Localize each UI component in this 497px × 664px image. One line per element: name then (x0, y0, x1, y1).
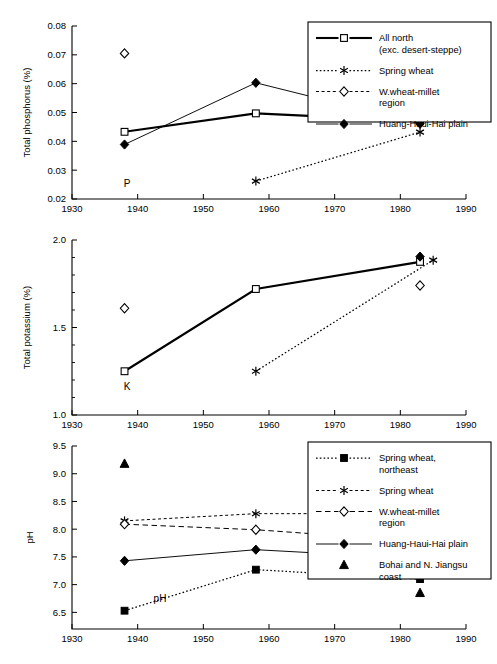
phosphorus-chart-svg: 0.020.030.040.050.060.070.08193019401950… (0, 0, 497, 230)
legend-label: Spring wheat (379, 66, 434, 76)
series-line (125, 262, 421, 371)
data-point (252, 566, 259, 573)
legend: Spring wheat,northeastSpring wheatW.whea… (308, 442, 491, 582)
data-point (252, 525, 260, 534)
axes (72, 240, 466, 415)
series-group (120, 252, 437, 376)
x-tick-label: 1940 (127, 633, 148, 644)
x-tick-label: 1990 (455, 203, 476, 214)
x-tick-label: 1970 (324, 203, 345, 214)
legend-label-line2: coast (379, 572, 402, 582)
figure-container: 0.020.030.040.050.060.070.08193019401950… (0, 0, 497, 664)
x-tick-label: 1990 (455, 633, 476, 644)
legend-label: Huang-Haui-Hai plain (379, 539, 468, 549)
data-point (120, 556, 128, 565)
y-axis-title: Total potassium (%) (21, 286, 32, 369)
x-tick-label: 1950 (193, 419, 214, 430)
series-line (256, 132, 420, 181)
y-tick-label: 0.05 (48, 107, 67, 118)
data-point (120, 304, 128, 313)
x-tick-label: 1990 (455, 419, 476, 430)
data-point (252, 367, 260, 376)
legend-label: W.wheat-millet (379, 507, 440, 517)
x-tick-label: 1930 (61, 203, 82, 214)
x-tick-label: 1980 (390, 419, 411, 430)
y-tick-label: 0.04 (48, 136, 67, 147)
panel-annotation: K (124, 381, 131, 392)
data-series (121, 258, 423, 374)
y-tick-label: 0.03 (48, 165, 67, 176)
x-tick-label: 1970 (324, 633, 345, 644)
data-series (252, 128, 424, 186)
x-tick-label: 1980 (390, 633, 411, 644)
x-tick-label: 1930 (61, 419, 82, 430)
data-point (252, 78, 260, 87)
chart-panel-ph: 6.57.07.58.08.59.09.51930194019501960197… (0, 432, 497, 664)
potassium-chart-svg: 1.01.52.01930194019501960197019801990Tot… (0, 222, 497, 437)
data-point (416, 588, 425, 596)
data-point (121, 368, 128, 375)
x-tick-label: 1950 (193, 633, 214, 644)
y-tick-label: 1.5 (53, 322, 66, 333)
series-line (256, 260, 433, 371)
chart-panel-phosphorus: 0.020.030.040.050.060.070.08193019401950… (0, 0, 497, 230)
x-tick-label: 1950 (193, 203, 214, 214)
y-tick-label: 8.5 (53, 496, 66, 507)
legend-label-line2: region (379, 518, 405, 528)
x-tick-label: 1970 (324, 419, 345, 430)
x-axis-ticks: 1930194019501960197019801990 (61, 194, 476, 214)
y-tick-label: 0.08 (48, 20, 67, 31)
axis-spines (72, 240, 466, 415)
y-tick-label: 9.5 (53, 440, 66, 451)
x-tick-label: 1960 (258, 419, 279, 430)
x-axis-ticks: 1930194019501960197019801990 (61, 624, 476, 644)
y-tick-label: 9.0 (53, 468, 66, 479)
data-point (252, 286, 259, 293)
y-axis-ticks: 1.01.52.0 (53, 234, 77, 420)
legend-label: Bohai and N. Jiangsu (379, 560, 467, 570)
data-point (429, 256, 437, 265)
panel-annotation: P (124, 178, 131, 189)
data-point (121, 128, 128, 135)
legend-label-line2: region (379, 98, 405, 108)
y-tick-label: 8.0 (53, 524, 66, 535)
data-point (120, 140, 128, 149)
data-point (121, 607, 128, 614)
y-axis-title: Total phosphorus (%) (21, 68, 32, 158)
data-point (120, 49, 128, 58)
x-tick-label: 1960 (258, 633, 279, 644)
y-tick-label: 2.0 (53, 234, 66, 245)
panel-annotation: pH (154, 593, 167, 604)
data-point (252, 545, 260, 554)
legend-label-line2: northeast (379, 465, 418, 475)
legend: All north(exc. desert-steppe)Spring whea… (308, 22, 491, 129)
y-tick-label: 0.07 (48, 49, 67, 60)
legend-label: Spring wheat (379, 486, 434, 496)
x-tick-label: 1930 (61, 633, 82, 644)
y-tick-label: 7.0 (53, 579, 66, 590)
legend-label: W.wheat-millet (379, 87, 440, 97)
legend-label: Huang-Haui-Hai plain (379, 119, 468, 129)
data-point (120, 459, 129, 467)
data-point (252, 110, 259, 117)
x-axis-ticks: 1930194019501960197019801990 (61, 410, 476, 430)
legend-marker (341, 455, 348, 462)
legend-label: All north (379, 33, 413, 43)
legend-marker (341, 35, 348, 42)
y-tick-label: 0.06 (48, 78, 67, 89)
legend-label-line2: (exc. desert-steppe) (379, 45, 462, 55)
y-axis-ticks: 6.57.07.58.08.59.09.5 (53, 440, 77, 617)
data-point (252, 177, 260, 186)
ph-chart-svg: 6.57.07.58.08.59.09.51930194019501960197… (0, 432, 497, 664)
y-axis-ticks: 0.020.030.040.050.060.070.08 (48, 20, 78, 204)
legend-label: Spring wheat, (379, 453, 436, 463)
y-axis-title: pH (24, 531, 35, 543)
x-tick-label: 1940 (127, 203, 148, 214)
y-tick-label: 7.5 (53, 551, 66, 562)
data-point (416, 281, 424, 290)
x-tick-label: 1980 (390, 203, 411, 214)
x-tick-label: 1940 (127, 419, 148, 430)
x-tick-label: 1960 (258, 203, 279, 214)
chart-panel-potassium: 1.01.52.01930194019501960197019801990Tot… (0, 222, 497, 437)
y-tick-label: 6.5 (53, 607, 66, 618)
